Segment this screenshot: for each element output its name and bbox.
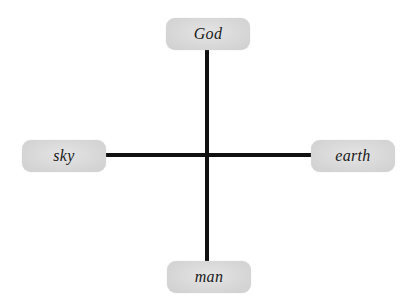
node-sky-label: sky [53,147,74,165]
node-god: God [166,18,250,50]
node-earth-label: earth [335,147,370,165]
node-sky: sky [22,140,106,172]
node-man: man [167,261,251,293]
node-god-label: God [194,25,222,43]
horizontal-axis-line [105,153,312,157]
cross-diagram: God sky earth man [0,0,412,307]
node-earth: earth [311,140,395,172]
node-man-label: man [195,268,223,286]
